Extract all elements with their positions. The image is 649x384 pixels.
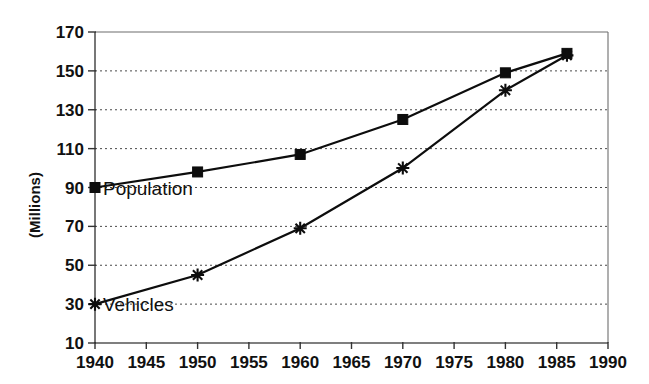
- y-tick-label-10: 10: [65, 334, 84, 353]
- data-point-marker-vehicles-1986: [560, 49, 573, 62]
- x-tick-label-1980: 1980: [486, 353, 524, 372]
- line-chart: 1030507090110130150170 19401945195019551…: [0, 0, 649, 384]
- data-point-marker-vehicles-1970: [396, 162, 409, 175]
- data-point-marker-population-1940: [90, 183, 100, 193]
- data-point-marker-population-1960: [295, 149, 305, 159]
- y-tick-label-70: 70: [65, 217, 84, 236]
- data-point-marker-population-1970: [398, 114, 408, 124]
- y-tick-label-130: 130: [56, 101, 84, 120]
- x-tick-label-1955: 1955: [230, 353, 268, 372]
- y-tick-label-110: 110: [57, 140, 84, 159]
- y-tick-label-170: 170: [56, 23, 84, 42]
- x-tick-label-1965: 1965: [333, 353, 371, 372]
- x-tick-label-1945: 1945: [127, 353, 165, 372]
- series-annotation-vehicles: Vehicles: [103, 294, 174, 315]
- data-point-marker-vehicles-1980: [499, 84, 512, 97]
- y-tick-label-150: 150: [56, 62, 84, 81]
- x-tick-label-1990: 1990: [589, 353, 627, 372]
- x-tick-label-1950: 1950: [179, 353, 217, 372]
- data-point-marker-population-1950: [193, 167, 203, 177]
- x-tick-label-1985: 1985: [538, 353, 576, 372]
- y-tick-label-90: 90: [65, 179, 84, 198]
- y-axis-title: (Millions): [26, 172, 43, 238]
- y-tick-label-30: 30: [65, 295, 84, 314]
- data-point-marker-population-1980: [500, 68, 510, 78]
- data-point-marker-vehicles-1950: [191, 268, 204, 281]
- x-tick-label-1960: 1960: [281, 353, 319, 372]
- data-point-marker-vehicles-1960: [294, 222, 307, 235]
- series-annotation-population: Population: [103, 178, 193, 199]
- x-tick-label-1970: 1970: [384, 353, 422, 372]
- x-tick-label-1975: 1975: [435, 353, 473, 372]
- y-tick-label-50: 50: [65, 256, 84, 275]
- x-tick-label-1940: 1940: [76, 353, 114, 372]
- chart-container: 1030507090110130150170 19401945195019551…: [0, 0, 649, 384]
- data-point-marker-vehicles-1940: [89, 298, 102, 311]
